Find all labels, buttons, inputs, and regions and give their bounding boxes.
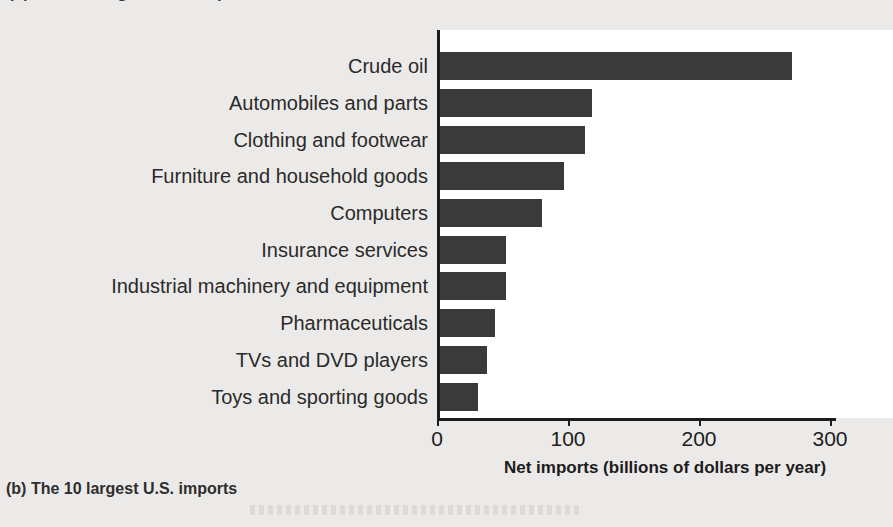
- category-label: Toys and sporting goods: [0, 387, 437, 407]
- category-row: Insurance services: [0, 231, 437, 268]
- bar: [440, 346, 487, 374]
- category-label: Automobiles and parts: [0, 93, 437, 113]
- bar: [440, 162, 564, 190]
- category-row: Automobiles and parts: [0, 85, 437, 122]
- bar-row: [440, 158, 893, 195]
- category-label: Crude oil: [0, 56, 437, 76]
- category-label: Clothing and footwear: [0, 130, 437, 150]
- category-row: Clothing and footwear: [0, 121, 437, 158]
- scan-bleedthrough-artifact: [250, 505, 580, 515]
- x-axis-tick-label: 200: [681, 427, 716, 451]
- bar-chart: Crude oil Automobiles and parts Clothing…: [0, 30, 893, 450]
- plot-area: Crude oil Automobiles and parts Clothing…: [0, 30, 893, 418]
- category-label: Computers: [0, 203, 437, 223]
- x-axis: 0100200300: [437, 418, 893, 419]
- category-row: Pharmaceuticals: [0, 305, 437, 342]
- category-label: Pharmaceuticals: [0, 313, 437, 333]
- bar: [440, 383, 478, 411]
- bar-row: [440, 121, 893, 158]
- bar-row: [440, 378, 893, 415]
- category-label: TVs and DVD players: [0, 350, 437, 370]
- bar: [440, 126, 585, 154]
- bar-row: [440, 268, 893, 305]
- bar: [440, 309, 495, 337]
- clipped-top-heading: (a) The 10 largest U.S. exports: [0, 0, 893, 16]
- category-row: Industrial machinery and equipment: [0, 268, 437, 305]
- category-label: Industrial machinery and equipment: [0, 276, 437, 296]
- bar: [440, 236, 506, 264]
- category-row: Furniture and household goods: [0, 158, 437, 195]
- bar-row: [440, 85, 893, 122]
- x-axis-tick-label: 0: [431, 427, 443, 451]
- bar: [440, 89, 592, 117]
- bar-row: [440, 231, 893, 268]
- bar-row: [440, 342, 893, 379]
- clipped-top-heading-text: (a) The 10 largest U.S. exports: [8, 0, 261, 3]
- category-row: Crude oil: [0, 48, 437, 85]
- bar: [440, 52, 792, 80]
- x-axis-tick: [568, 418, 570, 426]
- x-axis-tick-label: 100: [550, 427, 585, 451]
- category-label: Furniture and household goods: [0, 166, 437, 186]
- bar-row: [440, 48, 893, 85]
- figure-caption: (b) The 10 largest U.S. imports: [6, 480, 237, 498]
- bars-column: [437, 30, 893, 418]
- bar: [440, 199, 542, 227]
- category-label-column: Crude oil Automobiles and parts Clothing…: [0, 30, 437, 418]
- bar-row: [440, 195, 893, 232]
- bar-row: [440, 305, 893, 342]
- x-axis-line: [437, 418, 836, 421]
- category-row: TVs and DVD players: [0, 342, 437, 379]
- bar: [440, 272, 506, 300]
- category-row: Computers: [0, 195, 437, 232]
- category-label: Insurance services: [0, 240, 437, 260]
- x-axis-tick: [830, 418, 832, 426]
- x-axis-tick-label: 300: [812, 427, 847, 451]
- x-axis-tick: [699, 418, 701, 426]
- x-axis-title: Net imports (billions of dollars per yea…: [437, 458, 893, 478]
- x-axis-tick: [437, 418, 439, 426]
- category-row: Toys and sporting goods: [0, 378, 437, 415]
